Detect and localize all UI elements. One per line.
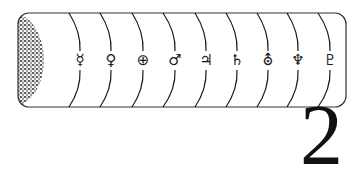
figure-number: 2 [300,92,343,175]
saturn-symbol-icon: ♄ [230,52,243,69]
orbit-arc-lower [195,70,206,107]
orbit-arc-upper [318,13,330,51]
uranus-symbol-icon: ⛢ [263,52,274,69]
orbit-arc-lower [287,70,298,107]
orbit-arc-upper [257,13,268,51]
sun [0,14,44,106]
mercury-symbol-icon: ☿ [75,52,84,69]
orbit-arc-upper [195,13,206,51]
neptune-symbol-icon: ♆ [291,52,304,69]
orbit-arc-upper [287,13,298,51]
earth-symbol-icon: ⊕ [137,52,150,69]
orbit-arc-upper [100,13,111,51]
orbit-arc-lower [69,70,80,107]
orbit-arc-upper [132,13,143,51]
venus-symbol-icon: ♀ [106,52,117,69]
orbit-arc-lower [100,70,111,107]
orbit-arc-lower [132,70,143,107]
orbit-arc-lower [163,70,175,107]
orbit-arc-lower [257,70,268,107]
orbit-arc-upper [226,13,237,51]
orbit-arc-lower [226,70,237,107]
pluto-symbol-icon: ♇ [323,52,336,69]
jupiter-symbol-icon: ♃ [199,52,212,69]
orbit-arc-upper [163,13,175,51]
orbit-arc-upper [69,13,80,51]
mars-symbol-icon: ♂ [168,52,181,69]
